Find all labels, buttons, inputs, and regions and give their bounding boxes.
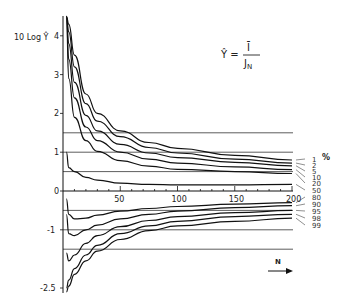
curve-1-percent xyxy=(66,16,292,160)
y-ticks: 43210-1-2.5 xyxy=(40,32,63,293)
curve-10-percent xyxy=(66,16,292,169)
x-tick-label: 200 xyxy=(286,195,301,204)
legend-unit: % xyxy=(322,153,330,162)
formula-denominator: JN xyxy=(243,58,252,71)
chart: 50100150200 43210-1-2.5 10 Log Ŷ Ŷ = Ī J… xyxy=(0,0,339,308)
x-axis-label: N xyxy=(275,258,281,266)
y-tick-label: -2.5 xyxy=(40,284,56,293)
legend-label: 99 xyxy=(312,222,321,230)
percentile-curves xyxy=(66,16,292,292)
curve-20-percent xyxy=(66,16,292,173)
curve-99-percent xyxy=(66,218,292,292)
y-tick-label: 2 xyxy=(54,109,59,118)
x-ticks: 50100150200 xyxy=(74,186,301,204)
x-tick-label: 50 xyxy=(114,195,124,204)
legend: 1251020508090959899 xyxy=(296,156,321,230)
formula: Ŷ = Ī JN xyxy=(220,41,260,71)
x-tick-label: 150 xyxy=(229,195,244,204)
y-tick-label: -1 xyxy=(47,226,55,235)
y-tick-label: 4 xyxy=(54,32,59,41)
curve-95-percent xyxy=(66,210,292,260)
y-tick-label: 0 xyxy=(54,187,59,196)
y-tick-label: 3 xyxy=(54,71,59,80)
curve-5-percent xyxy=(66,16,292,165)
y-axis-label: 10 Log Ŷ xyxy=(14,31,49,42)
y-tick-label: 1 xyxy=(54,148,59,157)
x-tick-label: 100 xyxy=(172,195,187,204)
formula-lhs: Ŷ = xyxy=(220,48,239,60)
x-axis-arrow-icon xyxy=(268,268,293,274)
formula-numerator: Ī xyxy=(247,41,250,53)
